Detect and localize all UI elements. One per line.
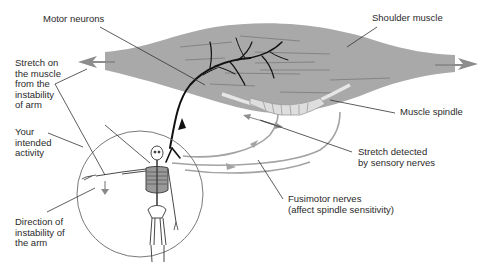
label-stretch-detected: Stretch detected by sensory nerves [358,147,435,168]
label-motor-neurons: Motor neurons [43,14,104,25]
label-your-intended-activity: Your intended activity [15,127,51,159]
diagram-canvas: Motor neurons Shoulder muscle Stretch on… [0,0,492,265]
body-circle [77,131,203,257]
skeleton-figure [82,146,178,262]
shoulder-muscle-shape [105,23,455,113]
label-muscle-spindle: Muscle spindle [400,107,463,118]
sensory-nerves [172,112,340,173]
label-fusimotor-nerves: Fusimotor nerves (affect spindle sensiti… [288,194,394,215]
label-stretch-on-muscle: Stretch on the muscle from the instabili… [15,58,61,111]
label-shoulder-muscle: Shoulder muscle [372,13,443,24]
instability-arrow [101,181,109,195]
label-direction-of-instability: Direction of instability of the arm [15,217,65,249]
